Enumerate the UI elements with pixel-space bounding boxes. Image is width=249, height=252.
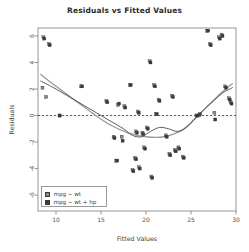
- series-0-points: [41, 29, 232, 178]
- y-tick-label-2: 2: [28, 87, 35, 91]
- y-tick-label-6: -6: [28, 192, 35, 198]
- data-point: [124, 106, 127, 109]
- data-point: [146, 127, 149, 130]
- data-point: [116, 159, 119, 162]
- data-point: [221, 34, 224, 37]
- y-tick-label-1: 4: [28, 60, 35, 64]
- data-point: [106, 101, 109, 104]
- plot-canvas: Residuals vs Fitted Values 1015202530642…: [0, 0, 249, 252]
- x-tick-label-4: 30: [232, 216, 240, 223]
- data-point: [182, 156, 185, 159]
- x-tick-label-1: 15: [97, 216, 105, 223]
- data-point: [58, 114, 61, 117]
- data-point: [81, 85, 84, 88]
- legend-box[interactable]: mpg ~ wt mpg ~ wt + hp: [41, 186, 107, 207]
- legend-item-0[interactable]: mpg ~ wt: [45, 190, 106, 198]
- data-point: [209, 44, 212, 47]
- data-point: [158, 99, 161, 102]
- legend-item-1[interactable]: mpg ~ wt + hp: [45, 198, 106, 206]
- data-point: [48, 44, 51, 47]
- series-1-points: [43, 29, 233, 179]
- x-tick-label-3: 25: [187, 216, 195, 223]
- smoother-curve-0: [41, 74, 233, 137]
- y-axis-title: Residuals: [8, 105, 15, 135]
- data-point: [172, 95, 175, 98]
- data-points: [41, 29, 233, 179]
- data-point: [144, 147, 147, 150]
- data-point: [149, 61, 152, 64]
- legend-swatch-icon-1: [45, 200, 50, 205]
- data-point: [155, 113, 158, 116]
- data-point: [165, 135, 168, 138]
- data-point: [113, 137, 116, 140]
- x-tick-label-2: 20: [142, 216, 150, 223]
- data-point: [45, 95, 48, 98]
- data-point: [138, 167, 141, 170]
- data-point: [199, 113, 202, 116]
- data-point: [43, 37, 46, 40]
- data-point: [121, 139, 124, 142]
- data-point: [137, 111, 140, 114]
- data-point: [213, 111, 216, 114]
- data-point: [135, 158, 138, 161]
- smoother-curves: [41, 74, 233, 137]
- data-point: [142, 133, 145, 136]
- y-tick-label-0: 6: [28, 34, 35, 38]
- y-tick-label-3: 0: [28, 113, 35, 117]
- data-point: [136, 131, 139, 134]
- data-point: [129, 84, 132, 87]
- y-tick-label-4: -2: [28, 139, 35, 145]
- chart-svg: 10152025306420-2-4-6Fitted ValuesResidua…: [0, 0, 249, 252]
- data-point: [178, 147, 181, 150]
- data-point: [120, 135, 123, 138]
- data-point: [154, 85, 157, 88]
- plot-frame: [38, 28, 236, 211]
- data-point: [41, 86, 44, 89]
- y-tick-label-5: -4: [28, 165, 35, 171]
- data-point: [230, 102, 233, 105]
- data-point: [151, 176, 154, 179]
- data-point: [169, 154, 172, 157]
- x-tick-label-0: 10: [52, 216, 60, 223]
- data-point: [228, 98, 231, 101]
- data-point: [174, 150, 177, 153]
- data-point: [207, 29, 210, 32]
- data-point: [225, 86, 228, 89]
- legend-label-0: mpg ~ wt: [54, 190, 82, 198]
- legend-swatch-icon-0: [45, 192, 50, 197]
- smoother-curve-1: [41, 81, 233, 137]
- data-point: [118, 102, 121, 105]
- legend-label-1: mpg ~ wt + hp: [54, 198, 97, 206]
- x-axis-title: Fitted Values: [117, 235, 157, 242]
- data-point: [132, 170, 135, 173]
- data-point: [214, 118, 217, 121]
